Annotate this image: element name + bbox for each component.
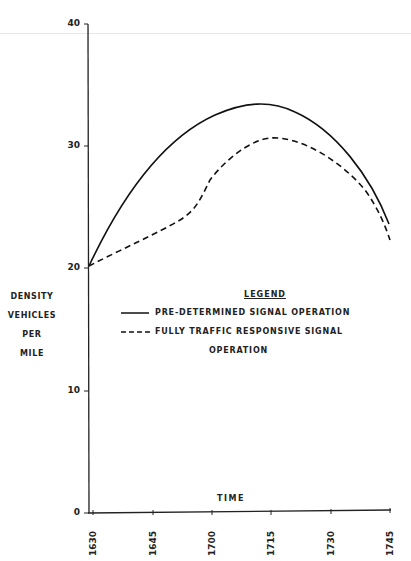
legend-title: LEGEND [230, 290, 300, 299]
density-chart: 40 30 20 10 0 DENSITY VEHICLES PER MILE … [0, 0, 411, 561]
y-tick-label: 30 [60, 140, 80, 150]
x-axis [88, 510, 391, 513]
legend-entry-predetermined: PRE-DETERMINED SIGNAL OPERATION [155, 308, 350, 317]
x-tick-label: 1645 [148, 531, 158, 556]
y-axis-label-line4: MILE [2, 349, 62, 358]
x-tick-label: 1715 [266, 531, 276, 556]
y-tick-label: 40 [60, 18, 80, 28]
y-axis-label-line3: PER [2, 330, 62, 339]
legend-entry-responsive-cont: OPERATION [209, 346, 268, 355]
x-tick-label: 1730 [326, 531, 336, 556]
x-tick-label: 1700 [207, 531, 217, 556]
y-tick-label: 10 [60, 385, 80, 395]
y-axis-label-line1: DENSITY [2, 292, 62, 301]
series-responsive-line [89, 138, 390, 266]
y-axis-label-line2: VEHICLES [2, 311, 62, 320]
series-predetermined-line [89, 104, 389, 266]
legend-entry-responsive: FULLY TRAFFIC RESPONSIVE SIGNAL [155, 327, 343, 336]
y-tick-label: 0 [60, 507, 80, 517]
x-tick-label: 1745 [385, 531, 395, 556]
y-tick-label: 20 [60, 262, 80, 272]
x-axis-label: TIME [217, 494, 245, 503]
x-tick-label: 1630 [88, 531, 98, 556]
plot-area [0, 0, 411, 561]
